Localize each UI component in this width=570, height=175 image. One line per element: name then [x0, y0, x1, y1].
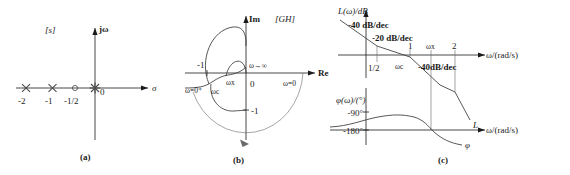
caption-c: (c)	[438, 155, 448, 165]
panel-c: L(ω)/dB -40 dB/dec -20 dB/dec -40dB/dec …	[330, 0, 570, 175]
nyquist-arc-arrow	[240, 140, 249, 148]
panel-a-svg: [s] jω σ -2 -1 -1/2 0 (a)	[0, 0, 185, 175]
re-axis-arrow	[308, 70, 315, 75]
tick-label-two: 2	[452, 41, 457, 51]
tick-label-one: 1	[408, 41, 413, 51]
pole-label-minus1: -1	[45, 96, 53, 106]
slope-label-minus40-first: -40 dB/dec	[348, 20, 389, 30]
sigma-axis-arrow	[141, 85, 148, 90]
nyquist-small-loop	[226, 61, 246, 76]
origin-label-a: 0	[100, 87, 105, 97]
omega-c-label-b: ωc	[211, 87, 220, 96]
nyquist-omega-zero-plus-branch	[185, 67, 246, 88]
figure-root: [s] jω σ -2 -1 -1/2 0 (a)	[0, 0, 570, 175]
jomega-axis-arrow	[92, 28, 97, 35]
magnitude-axis-label: L(ω)/dB	[337, 6, 368, 16]
phase-axis-arrow	[478, 127, 485, 132]
omega-infinity-label: ω→∞	[249, 61, 267, 70]
plane-label-gh: [GH]	[275, 14, 296, 24]
phase-axis-label: φ(ω)/(°)	[336, 95, 365, 105]
jomega-axis-label: jω	[98, 24, 109, 34]
magnitude-axis-arrow	[478, 52, 485, 57]
sigma-axis-label: σ	[152, 83, 157, 93]
re-axis-label: Re	[318, 68, 329, 78]
frequency-axis-label-top: ω/(rad/s)	[486, 50, 518, 60]
slope-label-minus40-second: -40dB/dec	[418, 62, 457, 72]
origin-label-b: 0	[250, 79, 255, 89]
curve-label-phi: φ	[465, 140, 470, 150]
omega-zero-plus-label: ω=0⁺	[185, 86, 202, 95]
tick-label-omega-x: ωx	[426, 42, 435, 51]
panel-c-svg: L(ω)/dB -40 dB/dec -20 dB/dec -40dB/dec …	[330, 0, 570, 175]
frequency-axis-label-bottom: ω/(rad/s)	[486, 125, 518, 135]
phase-tick-label-minus180: -180°	[343, 126, 363, 136]
tick-label-half: 1/2	[368, 63, 380, 73]
caption-a: (a)	[80, 152, 91, 162]
imag-tick-label: -1	[251, 106, 259, 116]
double-pole-marker-origin	[90, 83, 101, 94]
phase-tick-label-minus90: -90°	[347, 108, 363, 118]
caption-b: (b)	[233, 155, 244, 165]
critical-point-label: -1	[197, 60, 205, 70]
im-axis-label: Im	[249, 14, 261, 24]
slope-label-minus20: -20 dB/dec	[372, 33, 413, 43]
omega-x-label-b: ωx	[226, 78, 235, 87]
omega-zero-label: ω=0	[283, 79, 296, 88]
im-axis-arrow	[243, 16, 248, 23]
curve-label-L: L	[472, 120, 478, 130]
panel-a: [s] jω σ -2 -1 -1/2 0 (a)	[0, 0, 185, 175]
tick-label-omega-c: ωc	[395, 62, 404, 71]
zero-label-minus-half: -1/2	[64, 96, 79, 106]
pole-label-minus2: -2	[18, 96, 26, 106]
plane-label-s: [s]	[45, 25, 56, 35]
